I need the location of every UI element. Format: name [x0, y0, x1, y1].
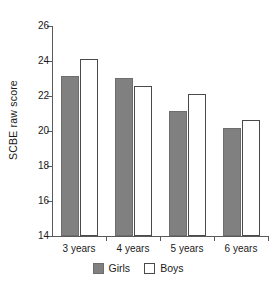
- chart-figure: SCBE raw score 14161820222426 3 years4 y…: [0, 0, 276, 289]
- x-axis-label-5-years: 5 years: [160, 242, 214, 255]
- x-axis-label-3-years: 3 years: [52, 242, 106, 255]
- legend-item-boys: Boys: [144, 262, 183, 274]
- legend-swatch-girls: [93, 263, 104, 274]
- y-tick-label: 18: [38, 159, 49, 172]
- y-axis-line: [52, 26, 53, 236]
- x-axis-label-6-years: 6 years: [214, 242, 268, 255]
- bar-boys-3-years: [80, 59, 98, 236]
- y-tick-label: 22: [38, 89, 49, 102]
- x-axis-label-4-years: 4 years: [106, 242, 160, 255]
- legend-label-girls: Girls: [109, 262, 131, 274]
- x-tick-mark: [268, 236, 269, 241]
- bar-boys-6-years: [242, 120, 260, 236]
- legend-swatch-boys: [144, 263, 155, 274]
- plot-area: 14161820222426 3 years4 years5 years6 ye…: [52, 26, 268, 236]
- chart-legend: GirlsBoys: [0, 262, 276, 274]
- legend-label-boys: Boys: [160, 262, 183, 274]
- y-tick-label: 16: [38, 194, 49, 207]
- x-tick-mark: [214, 236, 215, 241]
- x-tick-mark: [160, 236, 161, 241]
- bar-boys-5-years: [188, 94, 206, 236]
- x-tick-mark: [106, 236, 107, 241]
- bar-girls-4-years: [115, 78, 133, 236]
- y-tick-label: 26: [38, 19, 49, 32]
- y-axis-title: SCBE raw score: [0, 0, 26, 240]
- y-tick-label: 24: [38, 54, 49, 67]
- bar-boys-4-years: [134, 86, 152, 236]
- bar-girls-6-years: [223, 128, 241, 237]
- bar-girls-3-years: [61, 76, 79, 236]
- y-axis-title-text: SCBE raw score: [7, 80, 19, 160]
- legend-item-girls: Girls: [93, 262, 131, 274]
- y-tick-label: 14: [38, 229, 49, 242]
- bar-girls-5-years: [169, 111, 187, 236]
- y-tick-label: 20: [38, 124, 49, 137]
